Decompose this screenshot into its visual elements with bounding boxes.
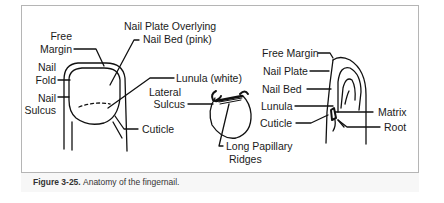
label-nail-bed-pink: Nail Bed (pink) bbox=[143, 33, 212, 45]
figure-number: Figure 3-25. bbox=[33, 177, 81, 187]
label-free: Free bbox=[50, 30, 72, 42]
root-lines bbox=[333, 120, 344, 131]
lunula-matrix-shape bbox=[331, 108, 336, 120]
label-nail-plate-overlying: Nail Plate Overlying bbox=[124, 20, 216, 32]
label-lunula-white: Lunula (white) bbox=[176, 72, 242, 84]
label-nail-fold-2: Fold bbox=[30, 74, 56, 86]
leader-free-margin-r bbox=[318, 53, 333, 58]
finger-cross-section bbox=[210, 91, 251, 138]
finger-outline-left bbox=[64, 63, 127, 151]
label-sulcus-middle: Sulcus bbox=[145, 98, 185, 110]
leader-root bbox=[338, 120, 380, 127]
label-ridges: Ridges bbox=[229, 153, 262, 165]
lunula-dash bbox=[79, 103, 110, 107]
label-root: Root bbox=[384, 121, 406, 133]
leader-cuticle-r bbox=[296, 115, 328, 123]
leader-lines-middle bbox=[188, 104, 229, 146]
label-nail-bed-right: Nail Bed bbox=[262, 83, 302, 95]
leader-lines-left bbox=[58, 40, 174, 129]
nail-plate-outline bbox=[69, 68, 120, 124]
finger-top-view bbox=[64, 63, 127, 151]
label-nail-fold-1: Nail bbox=[30, 61, 56, 73]
label-matrix: Matrix bbox=[378, 106, 407, 118]
label-cuticle-left: Cuticle bbox=[142, 123, 174, 135]
finger-side-view bbox=[326, 58, 366, 145]
label-free-margin-right: Free Margin bbox=[262, 47, 319, 59]
label-nail-plate-right: Nail Plate bbox=[263, 65, 308, 77]
label-nail-sulcus-1: Nail bbox=[30, 92, 56, 104]
label-long-papillary: Long Papillary bbox=[226, 140, 293, 152]
label-lateral: Lateral bbox=[145, 86, 181, 98]
label-nail-sulcus-2: Sulcus bbox=[24, 104, 56, 116]
label-lunula-right: Lunula bbox=[261, 100, 293, 112]
inner-bed-curve bbox=[345, 91, 349, 104]
figure-caption-text: Anatomy of the fingernail. bbox=[83, 177, 179, 187]
figure-caption: Figure 3-25. Anatomy of the fingernail. bbox=[21, 172, 419, 192]
label-margin: Margin bbox=[30, 43, 72, 55]
finger-front-outline bbox=[326, 60, 333, 143]
right-sulcus-hook bbox=[240, 92, 248, 95]
label-cuticle-right: Cuticle bbox=[260, 117, 292, 129]
